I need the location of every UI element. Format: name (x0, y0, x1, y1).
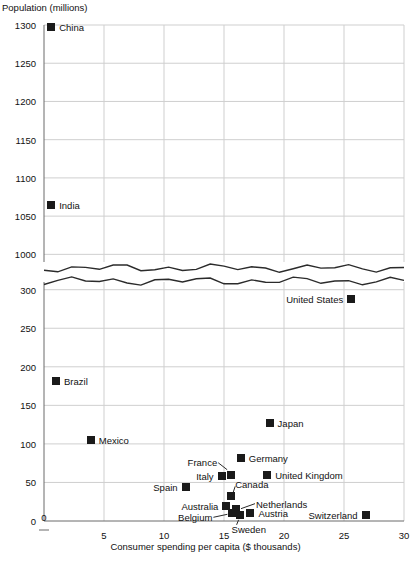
point-label-france: France (188, 456, 218, 467)
y-tick-50: 50 (0, 477, 36, 488)
y-tick-1100: 1100 (0, 172, 36, 183)
point-label-china: China (59, 22, 84, 33)
data-point-austria[interactable] (246, 509, 254, 517)
point-label-switzerland: Switzerland (308, 509, 357, 520)
y-tick-1300: 1300 (0, 20, 36, 31)
y-tick-150: 150 (0, 400, 36, 411)
y-tick-100: 100 (0, 438, 36, 449)
data-point-italy[interactable] (218, 472, 226, 480)
y-tick-1150: 1150 (0, 134, 36, 145)
x-axis-title: Consumer spending per capita ($ thousand… (0, 541, 411, 552)
y-tick-0: 0 (0, 516, 36, 527)
y-tick-1250: 1250 (0, 58, 36, 69)
data-point-switzerland[interactable] (362, 511, 370, 519)
data-point-india[interactable] (47, 201, 55, 209)
data-point-canada[interactable] (227, 492, 235, 500)
point-label-belgium: Belgium (178, 512, 212, 523)
point-label-united-states: United States (286, 293, 343, 304)
point-label-canada: Canada (235, 479, 268, 490)
point-label-spain: Spain (153, 482, 177, 493)
x-tick-5: 5 (101, 530, 106, 541)
data-point-china[interactable] (47, 23, 55, 31)
point-label-united-kingdom: United Kingdom (275, 469, 343, 480)
y-tick-250: 250 (0, 323, 36, 334)
point-label-india: India (59, 200, 80, 211)
point-label-australia: Australia (181, 500, 218, 511)
data-point-brazil[interactable] (52, 377, 60, 385)
point-label-brazil: Brazil (64, 376, 88, 387)
x-tick-10: 10 (159, 530, 170, 541)
point-label-japan: Japan (278, 418, 304, 429)
point-label-italy: Italy (196, 471, 213, 482)
data-point-united-states[interactable] (347, 295, 355, 303)
x-tick-0: 0 (41, 512, 46, 523)
data-point-japan[interactable] (266, 419, 274, 427)
x-tick-20: 20 (279, 530, 290, 541)
data-point-germany[interactable] (237, 454, 245, 462)
data-point-sweden[interactable] (236, 511, 244, 519)
data-point-united-kingdom[interactable] (263, 471, 271, 479)
y-tick-1050: 1050 (0, 211, 36, 222)
point-label-austria: Austria (258, 508, 288, 519)
y-tick-1000: 1000 (0, 249, 36, 260)
x-tick-15: 15 (219, 530, 230, 541)
point-label-germany: Germany (249, 452, 288, 463)
x-tick-30: 30 (399, 530, 410, 541)
data-point-spain[interactable] (182, 483, 190, 491)
point-label-sweden: Sweden (232, 523, 266, 534)
data-point-mexico[interactable] (87, 436, 95, 444)
x-tick-25: 25 (339, 530, 350, 541)
scatter-chart: Population (millions) 100010501100115012… (0, 0, 411, 565)
data-point-france[interactable] (227, 471, 235, 479)
point-label-mexico: Mexico (99, 435, 129, 446)
y-tick-200: 200 (0, 361, 36, 372)
y-tick-300: 300 (0, 284, 36, 295)
y-tick-1200: 1200 (0, 96, 36, 107)
